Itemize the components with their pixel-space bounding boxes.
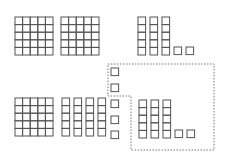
unit-cell	[91, 25, 99, 33]
unit-cell	[38, 128, 46, 136]
unit-cell	[30, 47, 38, 55]
unit-cell	[150, 40, 158, 48]
unit-cell	[23, 113, 31, 121]
unit-cell	[86, 106, 94, 114]
unit-cell	[84, 17, 92, 25]
unit-cell	[74, 98, 82, 106]
unit-cell	[86, 121, 94, 129]
unit-cell	[30, 113, 38, 121]
unit-cell	[23, 121, 31, 129]
unit-cell	[86, 113, 94, 121]
unit-cell	[151, 100, 159, 108]
unit-cell	[91, 17, 99, 25]
unit-cell	[15, 98, 23, 106]
unit-cell	[45, 40, 53, 48]
ten-rod	[162, 17, 170, 55]
unit-cell	[76, 40, 84, 48]
unit-cell	[61, 47, 69, 55]
unit-cell	[62, 113, 70, 121]
unit-cell	[151, 130, 159, 138]
unit-cell	[91, 47, 99, 55]
unit-cell	[23, 40, 31, 48]
unit-cell	[69, 25, 77, 33]
unit-cell	[150, 25, 158, 33]
unit-cell	[163, 108, 171, 116]
unit-cell	[98, 121, 106, 129]
unit-cell	[23, 106, 31, 114]
unit-cell	[38, 17, 46, 25]
unit-cell	[23, 98, 31, 106]
unit-cell	[15, 25, 23, 33]
unit-cell	[45, 98, 53, 106]
one-cube	[111, 131, 119, 139]
unit-cell	[150, 17, 158, 25]
unit-cell	[45, 32, 53, 40]
ten-rod	[139, 100, 147, 138]
unit-cell	[45, 17, 53, 25]
dashed-regrouping-outline	[108, 64, 214, 150]
top-row-blocks	[15, 17, 194, 55]
hundred-flat	[15, 98, 53, 136]
one-cube	[175, 130, 183, 138]
unit-cell	[163, 130, 171, 138]
unit-cell	[76, 17, 84, 25]
one-cube	[111, 84, 119, 92]
unit-cell	[162, 25, 170, 33]
bottom-row-blocks	[15, 68, 195, 139]
unit-cell	[150, 47, 158, 55]
ten-rod	[151, 100, 159, 138]
unit-cell	[163, 115, 171, 123]
unit-cell	[45, 25, 53, 33]
unit-cell	[139, 123, 147, 131]
unit-cell	[91, 32, 99, 40]
ten-rod	[150, 17, 158, 55]
unit-cell	[86, 128, 94, 136]
unit-cell	[38, 25, 46, 33]
unit-cell	[38, 32, 46, 40]
unit-cell	[61, 40, 69, 48]
unit-cell	[98, 106, 106, 114]
unit-cell	[30, 17, 38, 25]
ten-rod	[163, 100, 171, 138]
unit-cell	[15, 121, 23, 129]
unit-cell	[74, 121, 82, 129]
unit-cell	[151, 123, 159, 131]
ten-rod	[74, 98, 82, 136]
unit-cell	[84, 32, 92, 40]
unit-cell	[76, 32, 84, 40]
unit-cell	[15, 128, 23, 136]
unit-cell	[15, 47, 23, 55]
unit-cell	[162, 17, 170, 25]
unit-cell	[30, 106, 38, 114]
unit-cell	[30, 32, 38, 40]
unit-cell	[38, 47, 46, 55]
unit-cell	[15, 17, 23, 25]
unit-cell	[38, 121, 46, 129]
unit-cell	[151, 115, 159, 123]
unit-cell	[62, 128, 70, 136]
unit-cell	[38, 113, 46, 121]
unit-cell	[15, 113, 23, 121]
unit-cell	[69, 17, 77, 25]
unit-cell	[139, 115, 147, 123]
unit-cell	[30, 98, 38, 106]
unit-cell	[38, 98, 46, 106]
unit-cell	[61, 32, 69, 40]
unit-cell	[62, 106, 70, 114]
unit-cell	[84, 25, 92, 33]
unit-cell	[15, 106, 23, 114]
unit-cell	[139, 100, 147, 108]
hundred-flat	[15, 17, 53, 55]
unit-cell	[139, 108, 147, 116]
one-cube	[111, 68, 119, 76]
unit-cell	[98, 98, 106, 106]
unit-cell	[23, 47, 31, 55]
unit-cell	[61, 25, 69, 33]
one-cube	[111, 100, 119, 108]
unit-cell	[138, 32, 146, 40]
unit-cell	[23, 17, 31, 25]
ten-rod	[138, 17, 146, 55]
unit-cell	[30, 25, 38, 33]
unit-cell	[138, 40, 146, 48]
unit-cell	[38, 106, 46, 114]
